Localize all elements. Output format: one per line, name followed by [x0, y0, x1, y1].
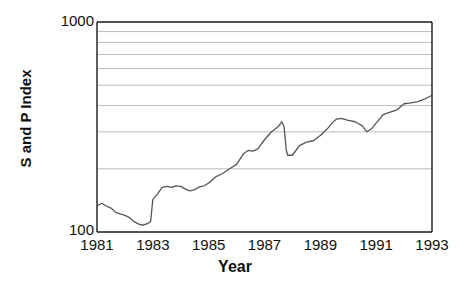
y-tick-label-top: 1000: [36, 12, 94, 29]
x-tick-label: 1987: [237, 236, 293, 253]
x-tick-label: 1993: [404, 236, 460, 253]
series-line-0: [97, 95, 432, 225]
x-tick-label: 1985: [181, 236, 237, 253]
chart-container: S and P Index 1000 100 19811983198519871…: [0, 0, 470, 288]
plot-frame: [97, 22, 432, 232]
x-tick-label: 1989: [292, 236, 348, 253]
x-tick-label: 1991: [348, 236, 404, 253]
gridlines-group: [97, 32, 432, 169]
x-tick-label: 1981: [69, 236, 125, 253]
x-axis-title: Year: [0, 258, 470, 276]
x-tick-label: 1983: [125, 236, 181, 253]
data-series-group: [97, 95, 432, 225]
